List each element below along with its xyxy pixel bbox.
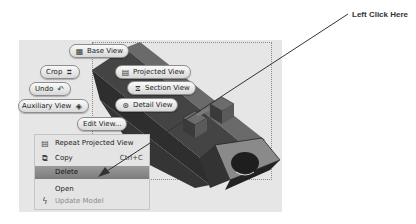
base-view-button[interactable]: ▦ Base View — [69, 44, 129, 58]
callout-label: Left Click Here — [352, 10, 408, 19]
detail-view-button[interactable]: ⊛ Detail View — [115, 98, 178, 112]
base-view-icon: ▦ — [75, 47, 84, 56]
projected-view-icon: ▤ — [40, 139, 50, 149]
section-view-button[interactable]: ⧖ Section View — [127, 81, 196, 95]
undo-button[interactable]: Undo ↶ — [29, 82, 71, 96]
section-view-icon: ⧖ — [133, 84, 142, 93]
menu-item-copy[interactable]: ⧉ Copy Ctrl+C — [35, 152, 149, 165]
crop-icon: ⌗ — [65, 68, 74, 77]
context-menu: ▤ Repeat Projected View ⧉ Copy Ctrl+C De… — [34, 134, 150, 210]
edit-view-button[interactable]: Edit View... — [77, 117, 127, 131]
undo-icon: ↶ — [56, 85, 65, 94]
detail-view-icon: ⊛ — [121, 101, 130, 110]
update-model-icon: ϟ — [40, 197, 50, 207]
copy-icon: ⧉ — [40, 154, 50, 164]
auxiliary-view-icon: ◈ — [74, 102, 83, 111]
menu-item-repeat-projected-view[interactable]: ▤ Repeat Projected View — [35, 137, 149, 150]
menu-item-update-model[interactable]: ϟ Update Model — [35, 195, 149, 208]
menu-item-delete[interactable]: Delete — [35, 166, 149, 179]
crop-button[interactable]: Crop ⌗ — [40, 65, 80, 79]
projected-view-icon: ▤ — [121, 68, 130, 77]
projected-view-button[interactable]: ▤ Projected View — [115, 65, 191, 79]
auxiliary-view-button[interactable]: Auxiliary View ◈ — [18, 99, 89, 113]
